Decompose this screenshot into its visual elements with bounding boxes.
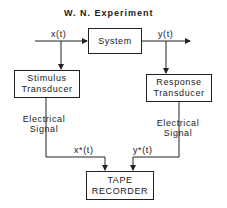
system-label: System [98, 36, 132, 47]
right-electrical-line2: Signal [150, 128, 206, 138]
system-block: System [88, 28, 142, 54]
stimulus-transducer-block: Stimulus Transducer [14, 70, 80, 98]
left-electrical-line1: Electrical [16, 114, 72, 124]
stimulus-label-line2: Transducer [21, 84, 72, 95]
stimulus-label-line1: Stimulus [27, 73, 66, 84]
left-electrical-line2: Signal [16, 124, 72, 134]
right-electrical-line1: Electrical [150, 118, 206, 128]
response-transducer-block: Response Transducer [146, 74, 212, 102]
recorder-label-line1: TAPE [107, 175, 132, 186]
response-label-line2: Transducer [153, 88, 204, 99]
signal-label-y-star: y*(t) [133, 145, 153, 155]
right-electrical-signal-label: Electrical Signal [150, 118, 206, 138]
x-star-path [46, 98, 105, 170]
tape-recorder-block: TAPE RECORDER [86, 171, 154, 200]
signal-label-y: y(t) [158, 29, 173, 39]
left-electrical-signal-label: Electrical Signal [16, 114, 72, 134]
signal-label-x: x(t) [51, 29, 66, 39]
recorder-label-line2: RECORDER [92, 186, 148, 197]
response-label-line1: Response [156, 77, 201, 88]
signal-label-x-star: x*(t) [74, 145, 94, 155]
diagram-title: W. N. Experiment [64, 8, 154, 18]
